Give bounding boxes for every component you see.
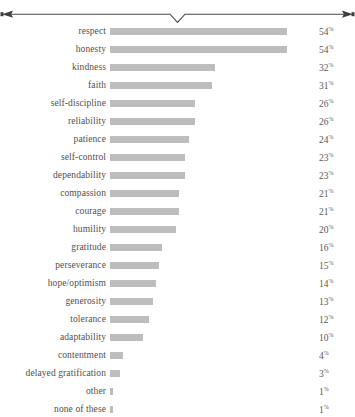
bar-category-label: dependability xyxy=(0,166,110,184)
bar-row: gratitude16% xyxy=(0,238,355,256)
bar-fill xyxy=(110,370,120,378)
bar-fill xyxy=(110,154,185,162)
percent-sign: % xyxy=(329,188,334,194)
bar-category-label: honesty xyxy=(0,40,110,58)
bar-category-label: respect xyxy=(0,22,110,40)
bar-value-number: 54 xyxy=(319,28,329,38)
percent-sign: % xyxy=(329,134,334,140)
percent-sign: % xyxy=(329,332,334,338)
bar-row: honesty54% xyxy=(0,40,355,58)
bar-row: reliability26% xyxy=(0,112,355,130)
bar-fill xyxy=(110,226,176,234)
bar-category-label: compassion xyxy=(0,184,110,202)
bar-fill xyxy=(110,406,113,414)
percent-sign: % xyxy=(329,224,334,230)
bar-value-number: 13 xyxy=(319,298,329,308)
bar-track xyxy=(110,22,310,40)
bar-row: compassion21% xyxy=(0,184,355,202)
bar-fill xyxy=(110,316,149,324)
bar-track xyxy=(110,184,310,202)
bar-category-label: none of these xyxy=(0,400,110,417)
percent-sign: % xyxy=(329,44,334,50)
bar-track xyxy=(110,220,310,238)
bar-track xyxy=(110,40,310,58)
bar-row: delayed gratification3% xyxy=(0,364,355,382)
bar-category-label: self-discipline xyxy=(0,94,110,112)
bar-fill xyxy=(110,28,287,36)
bar-track xyxy=(110,112,310,130)
bar-row: kindness32% xyxy=(0,58,355,76)
bar-value-number: 31 xyxy=(319,82,329,92)
percent-sign: % xyxy=(329,152,334,158)
bar-track xyxy=(110,58,310,76)
percent-sign: % xyxy=(324,350,329,356)
bar-track xyxy=(110,130,310,148)
bar-fill xyxy=(110,244,162,252)
bar-fill xyxy=(110,388,113,396)
bar-row: perseverance15% xyxy=(0,256,355,274)
bar-track xyxy=(110,400,310,417)
bar-fill xyxy=(110,82,212,90)
bar-row: courage21% xyxy=(0,202,355,220)
percent-sign: % xyxy=(329,26,334,32)
bar-category-label: generosity xyxy=(0,292,110,310)
bar-value-number: 20 xyxy=(319,226,329,236)
percent-sign: % xyxy=(329,62,334,68)
bar-row: humility20% xyxy=(0,220,355,238)
bar-category-label: tolerance xyxy=(0,310,110,328)
bar-row: adaptability10% xyxy=(0,328,355,346)
bar-row: dependability23% xyxy=(0,166,355,184)
bar-track xyxy=(110,364,310,382)
percent-sign: % xyxy=(324,404,329,410)
bar-value-label: 1% xyxy=(310,398,355,417)
bar-value-number: 24 xyxy=(319,136,329,146)
bar-row: respect54% xyxy=(0,22,355,40)
bar-category-label: courage xyxy=(0,202,110,220)
bar-value-number: 23 xyxy=(319,172,329,182)
bar-category-label: humility xyxy=(0,220,110,238)
bar-row: faith31% xyxy=(0,76,355,94)
bar-track xyxy=(110,238,310,256)
percent-sign: % xyxy=(329,80,334,86)
percent-sign: % xyxy=(329,242,334,248)
bar-fill xyxy=(110,118,195,126)
bar-track xyxy=(110,328,310,346)
bar-value-number: 23 xyxy=(319,154,329,164)
bar-fill xyxy=(110,280,156,288)
bar-track xyxy=(110,310,310,328)
bar-row: patience24% xyxy=(0,130,355,148)
bar-row: hope/optimism14% xyxy=(0,274,355,292)
bar-category-label: kindness xyxy=(0,58,110,76)
bar-category-label: delayed gratification xyxy=(0,364,110,382)
bar-track xyxy=(110,382,310,400)
bar-row: other1% xyxy=(0,382,355,400)
bar-value-number: 26 xyxy=(319,118,329,128)
percent-sign: % xyxy=(329,296,334,302)
percent-sign: % xyxy=(329,278,334,284)
bar-category-label: perseverance xyxy=(0,256,110,274)
bar-track xyxy=(110,166,310,184)
bar-fill xyxy=(110,136,189,144)
bar-value-number: 21 xyxy=(319,208,329,218)
bar-value-number: 12 xyxy=(319,316,329,326)
bar-track xyxy=(110,256,310,274)
bar-value-number: 16 xyxy=(319,244,329,254)
bar-category-label: hope/optimism xyxy=(0,274,110,292)
bar-row: self-discipline26% xyxy=(0,94,355,112)
bar-category-label: patience xyxy=(0,130,110,148)
percent-sign: % xyxy=(329,116,334,122)
bar-fill xyxy=(110,208,179,216)
bar-fill xyxy=(110,172,185,180)
percent-sign: % xyxy=(329,260,334,266)
percent-sign: % xyxy=(329,314,334,320)
bar-track xyxy=(110,94,310,112)
bar-row: none of these1% xyxy=(0,400,355,417)
bar-value-number: 26 xyxy=(319,100,329,110)
bar-fill xyxy=(110,298,153,306)
bar-value-number: 32 xyxy=(319,64,329,74)
percent-sign: % xyxy=(329,206,334,212)
percent-sign: % xyxy=(324,386,329,392)
bar-track xyxy=(110,202,310,220)
bar-value-number: 10 xyxy=(319,334,329,344)
bar-value-number: 21 xyxy=(319,190,329,200)
